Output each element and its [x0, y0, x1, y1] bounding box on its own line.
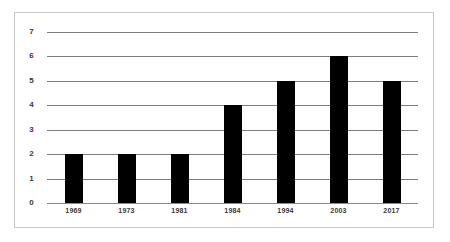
bar: [277, 81, 295, 203]
y-axis-tick-labels: 01234567: [14, 32, 42, 203]
x-axis-tick-label: 1984: [224, 205, 240, 217]
gridline: [47, 56, 418, 57]
bar-chart-figure: 01234567 1969197319811984199420032017: [0, 0, 450, 242]
gridline: [47, 32, 418, 33]
bar: [118, 154, 136, 203]
x-axis-tick-labels: 1969197319811984199420032017: [47, 205, 418, 219]
x-axis-tick-label: 1973: [118, 205, 134, 217]
y-axis-tick-label: 6: [29, 52, 34, 60]
gridline: [47, 81, 418, 82]
x-axis-baseline: [47, 203, 418, 204]
bar: [224, 105, 242, 203]
bar: [171, 154, 189, 203]
x-axis-tick-label: 2003: [330, 205, 346, 217]
y-axis-tick-label: 2: [29, 150, 34, 158]
y-axis-tick-label: 7: [29, 28, 34, 36]
bar: [330, 56, 348, 203]
x-axis-tick-label: 1981: [171, 205, 187, 217]
plot-area: [47, 32, 418, 203]
bar: [65, 154, 83, 203]
x-axis-tick-label: 1969: [65, 205, 81, 217]
y-axis-tick-label: 4: [29, 101, 34, 109]
y-axis-tick-label: 0: [29, 199, 34, 207]
x-axis-tick-label: 1994: [277, 205, 293, 217]
y-axis-tick-label: 1: [29, 175, 34, 183]
bar: [383, 81, 401, 203]
y-axis-tick-label: 3: [29, 126, 34, 134]
x-axis-tick-label: 2017: [383, 205, 399, 217]
y-axis-tick-label: 5: [29, 77, 34, 85]
